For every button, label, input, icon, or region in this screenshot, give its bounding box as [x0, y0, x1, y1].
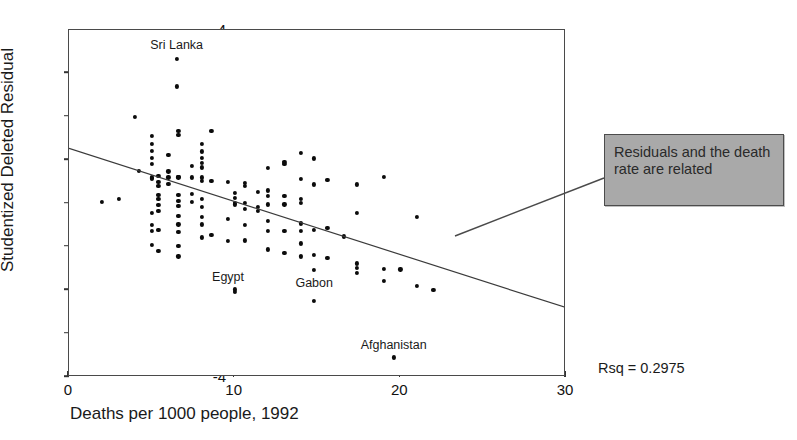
callout-text: Residuals and the death rate are related: [614, 144, 779, 178]
x-tick-label: 20: [379, 381, 419, 398]
regression-line-svg: [69, 30, 564, 375]
y-axis-title: Studentized Deleted Residual: [0, 0, 18, 360]
rsq-label: Rsq = 0.2975: [598, 360, 685, 376]
x-tick-label: 0: [48, 381, 88, 398]
regression-line: [69, 148, 564, 307]
plot-area: Sri LankaEgyptGabonAfghanistan: [68, 29, 565, 376]
x-tick-label: 30: [545, 381, 585, 398]
callout-box[interactable]: Residuals and the death rate are related: [604, 134, 784, 206]
x-axis-title: Deaths per 1000 people, 1992: [70, 404, 299, 424]
x-tick-label: 10: [214, 381, 254, 398]
cut-off-title: Studentized Residuals: [40, 0, 264, 15]
chart-stage: Studentized Residuals Studentized Delete…: [0, 0, 797, 440]
